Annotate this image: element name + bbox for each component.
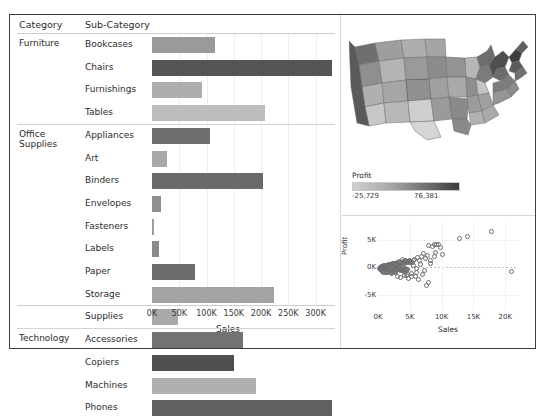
scatter-point[interactable] [381, 270, 386, 275]
toolbar-remnant [0, 0, 546, 10]
bar-cell [152, 105, 332, 121]
bar-cell [152, 219, 332, 235]
scatter-point[interactable] [440, 252, 445, 257]
scatter-point[interactable] [425, 253, 430, 258]
sub-category-label: Fasteners [85, 221, 128, 231]
bar-axis-tick: 200K [251, 309, 272, 318]
bar-cell [152, 264, 332, 280]
bar-cell [152, 128, 332, 144]
sub-category-label: Bookcases [85, 39, 133, 49]
bar[interactable] [152, 37, 215, 53]
column-header-sub-category: Sub-Category [85, 19, 150, 30]
sub-category-label: Envelopes [85, 198, 131, 208]
sub-category-label: Copiers [85, 357, 119, 367]
bar[interactable] [152, 173, 263, 189]
scatter-point[interactable] [465, 234, 470, 239]
legend-title: Profit [352, 171, 472, 180]
bar[interactable] [152, 287, 274, 303]
scatter-point[interactable] [509, 269, 514, 274]
table-row[interactable]: Paper [10, 261, 341, 284]
scatter-x-axis-title: Sales [378, 325, 518, 334]
sub-category-label: Binders [85, 175, 119, 185]
bar[interactable] [152, 128, 210, 144]
table-row[interactable]: Envelopes [10, 193, 341, 216]
scatter-point[interactable] [428, 261, 433, 266]
bar[interactable] [152, 82, 202, 98]
sub-category-label: Storage [85, 289, 120, 299]
bar-cell [152, 355, 332, 371]
bar[interactable] [152, 264, 195, 280]
us-choropleth-map[interactable] [349, 27, 529, 145]
table-row[interactable]: Binders [10, 170, 341, 193]
scatter-gridline [378, 295, 518, 296]
scatter-y-axis-title: Profit [341, 237, 349, 255]
bar[interactable] [152, 151, 167, 167]
sub-category-label: Appliances [85, 130, 134, 140]
bar[interactable] [152, 400, 332, 416]
scatter-point[interactable] [397, 259, 402, 264]
table-row[interactable]: Tables [10, 102, 341, 125]
table-row[interactable]: Furnishings [10, 79, 341, 102]
bar-axis-tick: 150K [224, 309, 245, 318]
sub-category-label: Supplies [85, 311, 123, 321]
sub-category-label: Machines [85, 380, 127, 390]
bar[interactable] [152, 378, 256, 394]
sub-category-label: Furnishings [85, 84, 136, 94]
scatter-point[interactable] [433, 250, 438, 255]
map-sheet: Profit -25,729 76,381 [342, 15, 535, 216]
scatter-sheet: Profit 5K0K-5K 0K5K10K15K20K Sales [342, 217, 535, 348]
table-row[interactable]: Labels [10, 238, 341, 261]
scatter-point[interactable] [420, 272, 425, 277]
bar[interactable] [152, 196, 161, 212]
table-row[interactable]: Storage [10, 284, 341, 307]
bar-cell [152, 287, 332, 303]
scatter-gridline [378, 240, 518, 241]
bar-cell [152, 400, 332, 416]
table-row[interactable]: FurnitureBookcases [10, 34, 341, 57]
table-row[interactable]: Office SuppliesAppliances [10, 125, 341, 148]
scatter-y-axis-ticks: 5K0K-5K [350, 223, 376, 311]
scatter-point[interactable] [432, 254, 437, 259]
scatter-point[interactable] [424, 283, 429, 288]
legend-min-value: -25,729 [352, 192, 379, 200]
scatter-x-tick: 5K [405, 313, 414, 321]
scatter-x-tick: 15K [467, 313, 481, 321]
sub-category-label: Paper [85, 266, 111, 276]
bar-cell [152, 82, 332, 98]
column-header-category: Category [19, 19, 62, 30]
sub-category-label: Phones [85, 402, 118, 412]
axis-divider [17, 305, 335, 306]
table-row[interactable]: Machines [10, 375, 341, 398]
scatter-gridline [505, 223, 506, 311]
scatter-gridline [473, 223, 474, 311]
group-divider [17, 328, 335, 329]
sub-category-label: Labels [85, 243, 114, 253]
table-row[interactable]: Phones [10, 397, 341, 420]
table-row[interactable]: Chairs [10, 57, 341, 80]
bar[interactable] [152, 60, 332, 76]
scatter-point[interactable] [489, 229, 494, 234]
table-row[interactable]: Copiers [10, 352, 341, 375]
table-row[interactable]: Fasteners [10, 216, 341, 239]
sub-category-label: Accessories [85, 334, 138, 344]
bar[interactable] [152, 105, 265, 121]
bar-axis-tick: 100K [196, 309, 217, 318]
bar-axis-tick: 250K [278, 309, 299, 318]
scatter-point[interactable] [422, 268, 427, 273]
bar[interactable] [152, 355, 234, 371]
map-legend: Profit -25,729 76,381 [352, 171, 472, 202]
table-row[interactable]: Art [10, 148, 341, 171]
bar[interactable] [152, 241, 159, 257]
sub-category-label: Art [85, 153, 98, 163]
bar-cell [152, 173, 332, 189]
legend-labels: -25,729 76,381 [352, 192, 472, 202]
scatter-gridline [442, 223, 443, 311]
scatter-x-tick: 10K [435, 313, 449, 321]
scatter-point[interactable] [416, 277, 421, 282]
bar-axis-tick: 300K [305, 309, 326, 318]
scatter-plot-area[interactable] [378, 223, 518, 311]
bar[interactable] [152, 219, 154, 235]
sub-category-label: Chairs [85, 62, 113, 72]
bar-chart-sheet: Category Sub-Category FurnitureBookcases… [10, 15, 341, 348]
bar-cell [152, 378, 332, 394]
